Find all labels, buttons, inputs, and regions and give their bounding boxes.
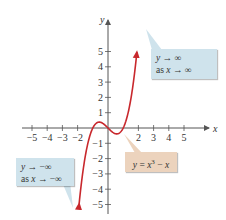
x-tick-label: 5 xyxy=(182,132,187,143)
x-tick-label: −2 xyxy=(72,132,83,143)
upper-callout-line1: y → ∞ xyxy=(156,52,212,64)
upper-callout-pointer xyxy=(146,29,162,50)
y-tick-label: 5 xyxy=(98,46,103,57)
lower-callout: y → −∞ as x → −∞ xyxy=(16,158,74,186)
callout-pointers xyxy=(62,29,162,208)
x-tick-label: −5 xyxy=(27,132,38,143)
y-axis-label: y xyxy=(99,14,105,25)
y-tick-label: −3 xyxy=(92,168,103,179)
x-tick-label: 4 xyxy=(166,132,171,143)
y-tick-label: 3 xyxy=(98,77,103,88)
equation-callout: y = x3 − x xyxy=(125,152,177,172)
y-tick-label: −1 xyxy=(92,138,103,149)
y-tick-label: 2 xyxy=(98,92,103,103)
chart-figure: −5−4−3−22345 54321−1−2−3−4−5 x y y → ∞ a… xyxy=(0,0,226,220)
x-axis-label: x xyxy=(212,123,218,134)
upper-callout-line2: as x → ∞ xyxy=(156,64,212,76)
y-tick-label: −5 xyxy=(92,199,103,210)
chart-svg: −5−4−3−22345 54321−1−2−3−4−5 x y xyxy=(0,0,226,220)
x-tick-label: 2 xyxy=(136,132,141,143)
y-tick-label: −2 xyxy=(92,153,103,164)
lower-callout-line2: as x → −∞ xyxy=(21,173,69,185)
y-tick-label: 1 xyxy=(98,107,103,118)
y-tick-label: −4 xyxy=(92,184,103,195)
lower-callout-line1: y → −∞ xyxy=(21,161,69,173)
x-tick-label: 3 xyxy=(151,132,156,143)
y-tick-label: 4 xyxy=(98,61,103,72)
x-tick-label: −3 xyxy=(57,132,68,143)
x-tick-label: −4 xyxy=(42,132,53,143)
upper-callout: y → ∞ as x → ∞ xyxy=(151,49,217,79)
